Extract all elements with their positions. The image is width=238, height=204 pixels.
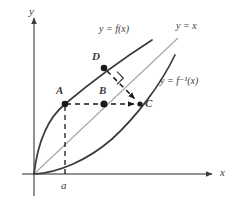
point-c — [137, 101, 142, 106]
inverse-function-diagram: y x a y = f(x) y = x y = f⁻¹(x) A B C D — [0, 0, 238, 204]
point-d — [101, 65, 108, 72]
tick-label-a: a — [61, 180, 67, 191]
curve-label-f: y = f(x) — [99, 24, 129, 34]
point-label-a: A — [56, 85, 63, 96]
point-label-c: C — [145, 98, 152, 109]
y-axis-label: y — [29, 6, 34, 17]
point-label-d: D — [92, 51, 100, 62]
x-axis-label: x — [220, 167, 225, 178]
curve-label-f-inverse: y = f⁻¹(x) — [160, 76, 198, 86]
point-b — [100, 100, 107, 107]
right-angle-marker — [111, 72, 124, 85]
axes-group — [22, 18, 212, 196]
curve-label-identity: y = x — [176, 21, 197, 31]
point-a — [62, 101, 69, 108]
point-label-b: B — [99, 85, 106, 96]
